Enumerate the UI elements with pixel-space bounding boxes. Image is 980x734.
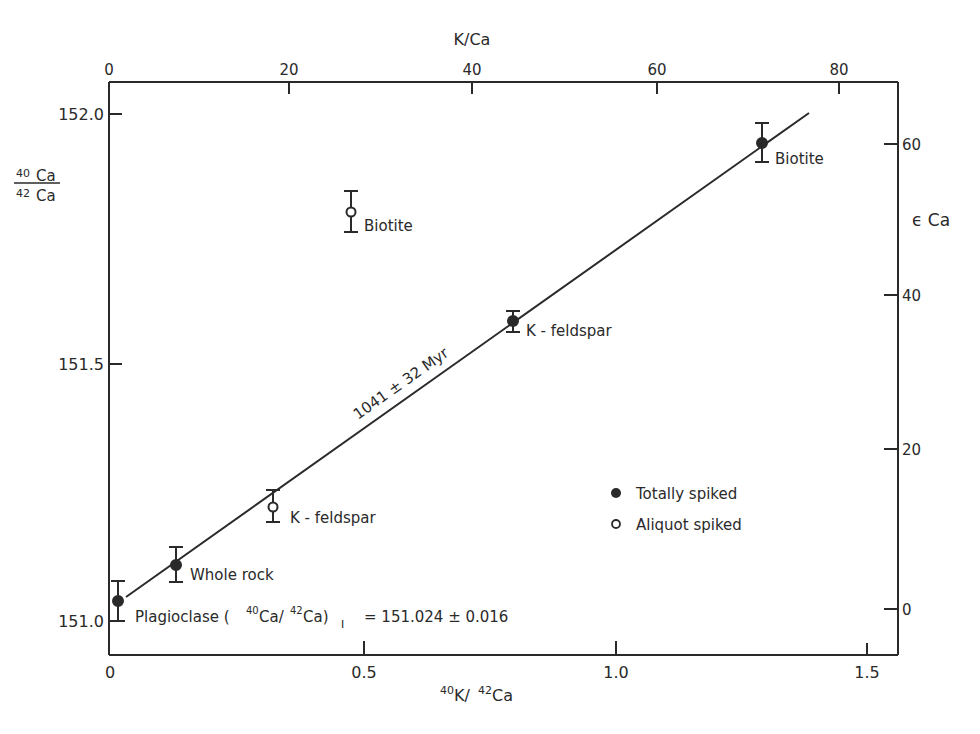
y2-tick-label: 60 xyxy=(902,136,921,154)
x-tick-label: 0 xyxy=(105,663,115,682)
label-whole-rock: Whole rock xyxy=(190,566,274,584)
right-axis-title: ϵ Ca xyxy=(912,210,950,230)
top-axis-labels: 0 20 40 60 80 xyxy=(104,61,848,79)
annot-text: Plagioclase ( xyxy=(135,608,230,626)
bottom-axis-title: 40 K/ 42 Ca xyxy=(440,684,513,705)
annot-value: = 151.024 ± 0.016 xyxy=(364,608,508,626)
x2-tick-label: 0 xyxy=(104,61,114,79)
x2-tick-label: 80 xyxy=(829,61,848,79)
annot-text: Ca/ xyxy=(259,608,285,626)
point-plagioclase xyxy=(111,581,125,621)
y2-tick-label: 20 xyxy=(902,441,921,459)
legend-filled-marker xyxy=(611,488,621,498)
top-axis-title: K/Ca xyxy=(454,30,491,49)
right-axis-labels: 60 40 20 0 xyxy=(902,136,921,619)
point-biotite-filled xyxy=(755,123,769,162)
label-biotite-open: Biotite xyxy=(364,217,413,235)
legend-filled-label: Totally spiked xyxy=(635,485,737,503)
x-tick-label: 1.5 xyxy=(854,663,879,682)
y-tick-label: 151.0 xyxy=(58,612,104,631)
label-biotite-filled: Biotite xyxy=(775,150,824,168)
superscript: 42 xyxy=(478,684,492,697)
x-tick-label: 0.5 xyxy=(351,663,376,682)
axis-text: K/ xyxy=(454,686,470,705)
x2-tick-label: 20 xyxy=(279,61,298,79)
x2-tick-label: 60 xyxy=(647,61,666,79)
bottom-axis-labels: 0 0.5 1.0 1.5 xyxy=(105,663,880,682)
y-tick-label: 152.0 xyxy=(58,105,104,124)
superscript: 42 xyxy=(16,187,30,200)
y2-tick-label: 0 xyxy=(902,601,912,619)
superscript: 40 xyxy=(246,605,259,616)
subscript: I xyxy=(341,618,344,631)
left-axis-labels: 152.0 151.5 151.0 xyxy=(58,105,104,631)
legend-open-marker xyxy=(612,520,620,528)
top-axis-ticks xyxy=(289,82,839,94)
y-tick-label: 151.5 xyxy=(58,355,104,374)
superscript: 42 xyxy=(290,605,303,616)
plagioclase-annotation: Plagioclase ( 40 Ca/ 42 Ca) I = 151.024 … xyxy=(135,605,508,631)
isochron-age-label: 1041 ± 32 Myr xyxy=(350,343,453,423)
point-kfeldspar-open xyxy=(266,490,280,522)
annot-text: Ca) xyxy=(303,608,329,626)
y2-tick-label: 40 xyxy=(902,287,921,305)
x2-tick-label: 40 xyxy=(462,61,481,79)
left-axis-ticks xyxy=(109,114,122,621)
point-biotite-open xyxy=(344,191,358,232)
isochron-chart: 0 20 40 60 80 K/Ca 152.0 151.5 151.0 40 … xyxy=(0,0,980,734)
left-axis-title: 40 Ca 42 Ca xyxy=(14,167,60,205)
superscript: 40 xyxy=(440,684,454,697)
element: Ca xyxy=(36,187,56,205)
bottom-axis-ticks xyxy=(364,641,867,655)
label-kfeldspar-open: K - feldspar xyxy=(290,509,377,527)
point-kfeldspar-filled xyxy=(506,311,520,332)
point-whole-rock xyxy=(169,547,183,582)
x-tick-label: 1.0 xyxy=(603,663,628,682)
axis-text: Ca xyxy=(492,686,513,705)
superscript: 40 xyxy=(16,167,30,180)
legend-open-label: Aliquot spiked xyxy=(636,516,742,534)
right-axis-ticks xyxy=(884,144,898,609)
legend: Totally spiked Aliquot spiked xyxy=(611,485,742,534)
data-points xyxy=(111,123,769,621)
label-kfeldspar-filled: K - feldspar xyxy=(526,322,613,340)
